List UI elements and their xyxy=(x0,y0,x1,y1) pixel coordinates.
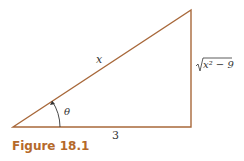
adjacent-label: 3 xyxy=(112,129,119,142)
right-triangle-diagram xyxy=(0,0,244,161)
triangle xyxy=(13,10,191,127)
figure-caption: Figure 18.1 xyxy=(12,139,89,153)
angle-label: θ xyxy=(64,106,70,117)
hypotenuse-label: x xyxy=(96,53,102,66)
opposite-label: x² − 9 xyxy=(203,59,234,70)
angle-arc xyxy=(52,101,60,127)
